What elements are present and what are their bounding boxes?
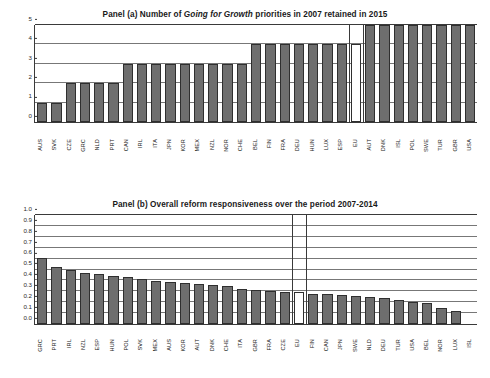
x-label-slot: HUN	[306, 138, 320, 172]
bar-can[interactable]	[123, 64, 133, 122]
bar-kor[interactable]	[180, 64, 190, 122]
bar-irl[interactable]	[137, 64, 147, 122]
bar-gbr[interactable]	[451, 25, 461, 122]
x-label-slot: AUT	[363, 138, 377, 172]
bar-aut[interactable]	[365, 25, 375, 122]
bar-slot	[235, 25, 249, 122]
bar-slot	[449, 215, 463, 324]
bar-fra[interactable]	[280, 44, 290, 122]
bar-mex[interactable]	[151, 281, 161, 324]
x-label-slot: ITA	[234, 338, 248, 372]
x-tick-label-isl: ISL	[467, 339, 473, 348]
bar-svk[interactable]	[137, 279, 147, 324]
bar-nzl[interactable]	[208, 64, 218, 122]
bar-isl[interactable]	[394, 25, 404, 122]
bar-cze[interactable]	[280, 292, 290, 324]
reference-bar-eu[interactable]	[294, 292, 304, 324]
bar-swe[interactable]	[351, 296, 361, 324]
bar-aus[interactable]	[165, 282, 175, 324]
bar-aus[interactable]	[37, 103, 47, 122]
x-tick-label-kor: KOR	[181, 139, 187, 151]
bar-slot	[163, 215, 177, 324]
bar-lux[interactable]	[322, 44, 332, 122]
x-tick-label-cze: CZE	[67, 139, 73, 151]
bar-dnk[interactable]	[208, 285, 218, 324]
x-label-slot: PRT	[105, 138, 119, 172]
panel-b-y-tick-label: 0.6	[23, 249, 35, 255]
bar-nld[interactable]	[365, 297, 375, 324]
reference-bar-eu[interactable]	[351, 44, 361, 122]
bar-bel[interactable]	[422, 303, 432, 324]
bar-aut[interactable]	[194, 284, 204, 324]
bar-deu[interactable]	[294, 44, 304, 122]
bar-slot	[292, 25, 306, 122]
x-tick-label-can: CAN	[324, 339, 330, 351]
bar-kor[interactable]	[180, 283, 190, 324]
bar-irl[interactable]	[66, 270, 76, 325]
bar-nld[interactable]	[94, 83, 104, 122]
bar-usa[interactable]	[408, 302, 418, 324]
bar-gbr[interactable]	[251, 290, 261, 324]
bar-grc[interactable]	[37, 258, 47, 324]
bar-nor[interactable]	[222, 64, 232, 122]
bar-slot	[263, 25, 277, 122]
bar-tur[interactable]	[394, 300, 404, 325]
panel-a-title-italic: Going for Growth	[184, 10, 253, 19]
x-tick-label-irl: IRL	[67, 339, 73, 348]
x-label-slot: DEU	[291, 138, 305, 172]
bar-swe[interactable]	[422, 25, 432, 122]
panel-b-y-tick-label: 0.9	[23, 217, 35, 223]
x-label-slot: ITA	[148, 138, 162, 172]
bar-bel[interactable]	[251, 44, 261, 122]
bar-mex[interactable]	[194, 64, 204, 122]
bar-prt[interactable]	[108, 83, 118, 122]
x-label-slot: AUS	[163, 338, 177, 372]
bar-pol[interactable]	[408, 25, 418, 122]
bar-slot	[463, 25, 477, 122]
x-tick-label-jpn: JPN	[339, 339, 345, 350]
bar-slot	[249, 25, 263, 122]
bar-dnk[interactable]	[379, 25, 389, 122]
bar-fin[interactable]	[308, 294, 318, 325]
bar-prt[interactable]	[51, 267, 61, 324]
x-label-slot: CHE	[220, 338, 234, 372]
x-tick-label-swe: SWE	[424, 139, 430, 152]
bar-nzl[interactable]	[80, 273, 90, 324]
bar-slot	[92, 215, 106, 324]
bar-nor[interactable]	[436, 308, 446, 324]
panel-b-reference-separator	[306, 215, 307, 324]
bar-grc[interactable]	[80, 83, 90, 122]
bar-lux[interactable]	[451, 311, 461, 324]
bar-fin[interactable]	[265, 44, 275, 122]
bar-usa[interactable]	[465, 25, 475, 122]
bar-ita[interactable]	[151, 64, 161, 122]
x-label-slot: NOR	[220, 138, 234, 172]
bar-esp[interactable]	[94, 274, 104, 324]
bar-ita[interactable]	[237, 289, 247, 324]
bar-svk[interactable]	[51, 103, 61, 122]
bar-deu[interactable]	[379, 298, 389, 324]
bar-esp[interactable]	[337, 44, 347, 122]
bar-fra[interactable]	[265, 291, 275, 324]
bar-jpn[interactable]	[165, 64, 175, 122]
bar-tur[interactable]	[436, 25, 446, 122]
x-tick-label-usa: USA	[410, 339, 416, 351]
x-label-slot: USA	[406, 338, 420, 372]
x-tick-label-gbr: GBR	[253, 339, 259, 351]
x-tick-label-can: CAN	[124, 139, 130, 151]
panel-a-plot-area: 012345	[34, 25, 477, 123]
bar-cze[interactable]	[66, 83, 76, 122]
bar-jpn[interactable]	[337, 295, 347, 324]
bar-hun[interactable]	[108, 276, 118, 324]
bar-can[interactable]	[322, 294, 332, 324]
bar-che[interactable]	[222, 286, 232, 324]
x-tick-label-aus: AUS	[38, 139, 44, 151]
bar-slot	[463, 215, 477, 324]
bar-pol[interactable]	[123, 277, 133, 324]
bar-slot	[420, 215, 434, 324]
bar-che[interactable]	[237, 64, 247, 122]
x-tick-label-grc: GRC	[81, 139, 87, 152]
x-tick-label-bel: BEL	[253, 139, 259, 150]
panel-b-title: Panel (b) Overall reform responsiveness …	[0, 190, 490, 209]
bar-hun[interactable]	[308, 44, 318, 122]
